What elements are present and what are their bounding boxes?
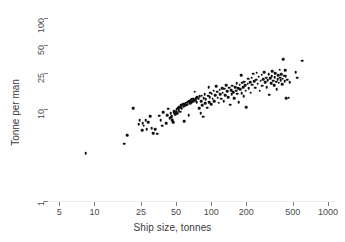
x-tick-mark — [211, 202, 212, 206]
x-tick-label: 1000 — [318, 207, 338, 217]
data-point — [147, 121, 150, 124]
y-axis-title: Tonne per man — [10, 48, 21, 178]
data-point — [126, 134, 129, 137]
data-point — [212, 89, 215, 92]
data-point — [301, 59, 304, 62]
data-point — [138, 123, 141, 126]
data-point — [152, 132, 155, 135]
data-point — [226, 90, 229, 93]
data-point — [264, 81, 267, 84]
data-point — [240, 74, 243, 77]
data-point — [172, 121, 175, 124]
data-point — [240, 92, 243, 95]
data-point — [256, 71, 259, 74]
data-point — [245, 106, 248, 109]
data-point — [294, 71, 297, 74]
x-axis-title: Ship size, tonnes — [0, 222, 345, 233]
data-point — [216, 91, 219, 94]
data-point — [255, 78, 258, 81]
data-point — [296, 76, 299, 79]
data-point — [206, 106, 209, 109]
data-point — [273, 84, 276, 87]
data-point — [199, 112, 202, 115]
x-tick-label: 25 — [136, 207, 146, 217]
data-point — [159, 119, 162, 122]
data-point — [165, 122, 168, 125]
data-point — [171, 114, 174, 117]
x-tick-mark — [176, 202, 177, 206]
scatter-plot-figure: 1102550100 51025501002005001000 Ship siz… — [0, 0, 345, 242]
data-point — [233, 97, 236, 100]
data-point — [268, 93, 271, 96]
data-point — [84, 152, 87, 155]
x-tick-label: 100 — [204, 207, 219, 217]
data-point — [276, 88, 279, 91]
x-tick-mark — [246, 202, 247, 206]
data-point — [247, 77, 250, 80]
data-point — [139, 119, 142, 122]
data-point — [229, 103, 232, 106]
x-tick-label: 5 — [57, 207, 62, 217]
x-tick-label: 200 — [239, 207, 254, 217]
data-point — [203, 93, 206, 96]
data-point — [215, 85, 218, 88]
x-tick-mark — [328, 202, 329, 206]
x-tick-mark — [141, 202, 142, 206]
data-point — [193, 91, 196, 94]
data-point — [149, 115, 152, 118]
y-tick-label: 50 — [37, 45, 46, 55]
data-point — [236, 92, 239, 95]
data-point — [143, 125, 146, 128]
data-point — [247, 87, 250, 90]
data-point — [278, 68, 281, 71]
cropped-title-text — [0, 0, 345, 3]
data-point — [251, 83, 254, 86]
data-point — [256, 82, 259, 85]
y-tick-label: 25 — [37, 73, 46, 83]
data-point — [222, 100, 225, 103]
data-point — [284, 75, 287, 78]
data-point — [278, 82, 281, 85]
data-point — [200, 100, 203, 103]
data-point — [202, 115, 205, 118]
data-point — [237, 101, 240, 104]
data-point — [205, 98, 208, 101]
data-point — [187, 114, 190, 117]
data-point — [217, 96, 220, 99]
data-point — [242, 95, 245, 98]
data-point — [249, 91, 252, 94]
y-tick-label: 1 — [37, 201, 46, 206]
data-point — [243, 80, 246, 83]
data-point — [207, 86, 210, 89]
data-point — [213, 100, 216, 103]
data-point — [154, 128, 157, 131]
data-point — [198, 107, 201, 110]
x-tick-mark — [59, 202, 60, 206]
data-point — [263, 71, 266, 74]
data-point — [258, 89, 261, 92]
data-point — [266, 86, 269, 89]
data-point — [145, 128, 148, 131]
data-point — [287, 96, 290, 99]
data-point — [183, 120, 186, 123]
data-point — [252, 72, 255, 75]
y-tick-label: 100 — [37, 18, 46, 33]
data-point — [250, 77, 253, 80]
x-tick-mark — [94, 202, 95, 206]
data-point — [217, 101, 220, 104]
y-tick-label: 10 — [37, 109, 46, 119]
data-point — [123, 143, 126, 146]
x-tick-mark — [293, 202, 294, 206]
data-point — [284, 69, 287, 72]
data-point — [204, 102, 207, 105]
data-point — [254, 86, 257, 89]
data-point — [141, 129, 144, 132]
data-point — [179, 110, 182, 113]
data-point — [288, 81, 291, 84]
data-point — [161, 125, 164, 128]
x-tick-label: 50 — [171, 207, 181, 217]
data-point — [261, 85, 264, 88]
data-point — [245, 89, 248, 92]
data-point — [282, 58, 285, 61]
x-tick-label: 500 — [285, 207, 300, 217]
